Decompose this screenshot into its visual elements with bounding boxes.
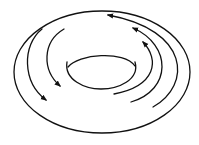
outer-ellipse (14, 11, 190, 133)
inner-hole-bottom (67, 62, 136, 89)
arrow-left-inner (47, 29, 64, 86)
arrow-left-outer (27, 29, 46, 100)
inner-hole-top (68, 56, 135, 67)
torus-diagram (0, 0, 199, 145)
